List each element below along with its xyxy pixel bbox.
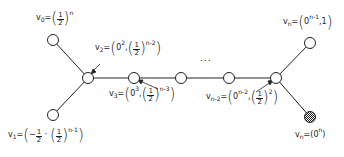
label-vn-bottom-eq: = [304, 130, 311, 139]
node-vn-2 [271, 73, 282, 84]
label-v1-exp: n-1 [68, 126, 78, 133]
edge-v1-v2 [53, 78, 88, 115]
label-vn-bottom-zero-exp: n [318, 126, 322, 133]
label-vn-2: vn-2=(0n-2,(12)2) [206, 89, 278, 106]
label-v0-exp: n [69, 9, 73, 16]
label-v2-zero-exp: 2 [121, 39, 125, 46]
edge-vn2-vn-bottom [276, 78, 310, 117]
label-v1: v1=(−12 · (12)n-1) [8, 127, 84, 144]
graph-diagram: ... v0=(12)n v2=(02,(12)n-2) v3=(03,(12)… [0, 0, 344, 157]
ellipsis: ... [200, 54, 212, 63]
node-vn-top [305, 38, 316, 49]
label-v1-neg-frac: 12 [36, 129, 42, 144]
label-v2: v2=(02,(12)n-2) [95, 40, 161, 57]
node-v3 [129, 73, 140, 84]
label-v2-exp: n-2 [146, 39, 156, 46]
label-v3-exp: n-3 [160, 85, 170, 92]
label-v0: v0=(12)n [36, 10, 73, 27]
label-vn-top-tail: ,1 [319, 17, 327, 26]
node-v1 [48, 110, 59, 121]
label-vn-top: vn=(0n-1,1) [283, 14, 333, 30]
node-vn-bottom-hatched [305, 112, 316, 123]
arrow-head-v2 [91, 69, 96, 74]
label-vn-top-zero-exp: n-1 [309, 13, 319, 20]
label-v3-zero-exp: 3 [135, 85, 139, 92]
label-vn2-zero-exp: n-2 [238, 88, 248, 95]
edge-v0-v2 [53, 40, 88, 78]
node-v5 [224, 73, 235, 84]
node-v0 [48, 35, 59, 46]
label-v3: v3=(03,(12)n-3) [109, 86, 175, 103]
label-vn2-sub: n-2 [211, 95, 221, 102]
node-v2 [83, 73, 94, 84]
label-vn-bottom: vn=(0n) [295, 127, 325, 140]
edge-vn2-vn-top [276, 43, 310, 78]
nodes [48, 35, 316, 123]
node-v4 [176, 73, 187, 84]
